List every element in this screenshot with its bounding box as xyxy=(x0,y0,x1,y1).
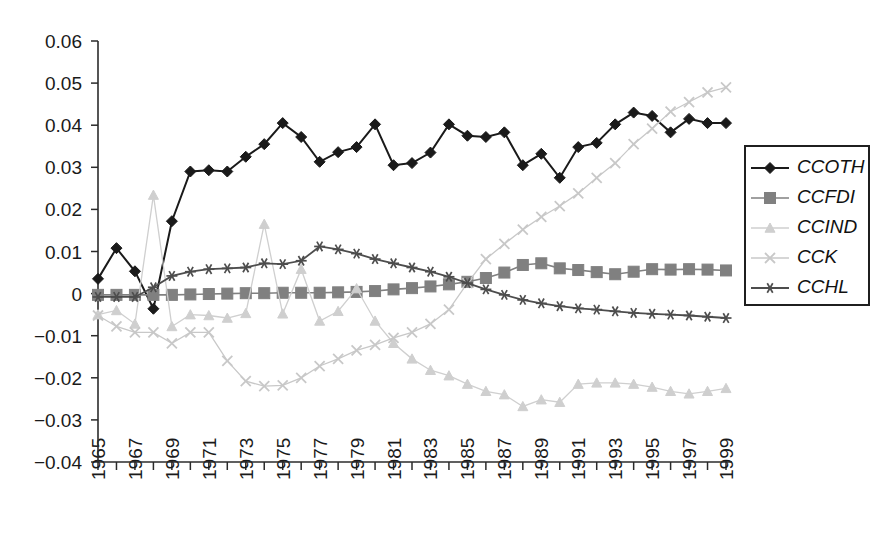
data-point-triangle xyxy=(111,305,121,314)
data-point-square xyxy=(628,266,639,277)
y-tick-label: −0.02 xyxy=(34,368,82,389)
data-point-x xyxy=(241,376,251,386)
legend-item-label: CCOTH xyxy=(797,156,865,177)
y-axis-ticks: 0.060.050.040.030.020.010−0.01−0.02−0.03… xyxy=(34,31,98,473)
data-point-triangle xyxy=(721,383,731,392)
data-point-asterisk xyxy=(702,312,713,322)
chart-legend: CCOTHCCFDICCINDCCKCCHL xyxy=(745,146,869,305)
data-point-x xyxy=(573,188,583,198)
data-point-diamond xyxy=(573,142,584,153)
x-tick-label: 1995 xyxy=(642,438,663,480)
x-axis-ticks: 1965196719691971197319751977197919811983… xyxy=(88,438,737,480)
data-point-square xyxy=(480,273,491,284)
data-point-triangle xyxy=(518,401,528,410)
data-point-square xyxy=(388,284,399,295)
x-tick-label: 1987 xyxy=(494,438,515,480)
data-point-diamond xyxy=(203,165,214,176)
data-point-triangle xyxy=(167,321,177,330)
data-series-layer xyxy=(93,82,732,410)
x-tick-label: 1981 xyxy=(384,438,405,480)
x-tick-label: 1991 xyxy=(568,438,589,480)
data-point-asterisk xyxy=(499,290,510,300)
x-tick-label: 1967 xyxy=(125,438,146,480)
data-point-diamond xyxy=(462,130,473,141)
legend-item-label: CCHL xyxy=(797,276,849,297)
data-point-diamond xyxy=(185,166,196,177)
data-point-x xyxy=(629,139,639,149)
data-point-triangle xyxy=(130,319,140,328)
legend-item-label: CCFDI xyxy=(797,186,856,207)
data-point-square xyxy=(111,289,122,300)
y-tick-label: 0.05 xyxy=(45,73,82,94)
data-point-x xyxy=(721,82,731,92)
data-point-x xyxy=(481,254,491,264)
data-point-diamond xyxy=(628,107,639,118)
data-point-square xyxy=(647,264,658,275)
data-point-diamond xyxy=(333,147,344,158)
data-point-diamond xyxy=(517,160,528,171)
data-point-diamond xyxy=(721,118,732,129)
data-point-x xyxy=(370,340,380,350)
data-point-asterisk xyxy=(647,309,658,319)
x-tick-label: 1969 xyxy=(162,438,183,480)
data-point-triangle xyxy=(259,219,269,228)
data-point-x xyxy=(536,212,546,222)
data-point-square xyxy=(93,289,104,300)
data-point-square xyxy=(370,286,381,297)
data-point-triangle xyxy=(296,264,306,273)
x-tick-label: 1989 xyxy=(531,438,552,480)
series-cck xyxy=(93,82,731,391)
data-point-diamond xyxy=(443,119,454,130)
data-point-asterisk xyxy=(665,310,676,320)
y-tick-label: 0.04 xyxy=(45,115,82,136)
data-point-triangle xyxy=(278,309,288,318)
data-point-square xyxy=(296,287,307,298)
data-point-x xyxy=(167,338,177,348)
data-point-x xyxy=(555,201,565,211)
data-point-square xyxy=(536,258,547,269)
data-point-asterisk xyxy=(388,259,399,269)
data-point-square xyxy=(443,279,454,290)
data-point-x xyxy=(111,321,121,331)
data-point-square xyxy=(765,193,776,204)
data-point-asterisk xyxy=(259,259,270,269)
data-point-diamond xyxy=(499,127,510,138)
data-point-diamond xyxy=(702,118,713,129)
y-tick-label: −0.04 xyxy=(34,452,83,473)
data-point-x xyxy=(352,345,362,355)
data-point-square xyxy=(333,287,344,298)
x-tick-label: 1993 xyxy=(605,438,626,480)
data-point-triangle xyxy=(462,379,472,388)
data-point-x xyxy=(407,327,417,337)
data-point-asterisk xyxy=(517,295,528,305)
data-point-asterisk xyxy=(684,311,695,321)
x-tick-label: 1997 xyxy=(679,438,700,480)
x-tick-label: 1971 xyxy=(199,438,220,480)
y-tick-label: 0.03 xyxy=(45,157,82,178)
data-point-triangle xyxy=(536,395,546,404)
data-point-diamond xyxy=(388,160,399,171)
data-point-square xyxy=(721,265,732,276)
data-point-asterisk xyxy=(554,301,565,311)
line-chart: 0.060.050.040.030.020.010−0.01−0.02−0.03… xyxy=(0,0,894,556)
y-tick-label: 0.06 xyxy=(45,31,82,52)
data-point-x xyxy=(518,225,528,235)
data-point-square xyxy=(407,283,418,294)
data-point-x xyxy=(592,173,602,183)
data-point-square xyxy=(203,289,214,300)
data-point-square xyxy=(314,287,325,298)
data-point-diamond xyxy=(480,131,491,142)
y-tick-label: 0.01 xyxy=(45,242,82,263)
data-point-square xyxy=(259,288,270,299)
data-point-square xyxy=(185,289,196,300)
data-point-asterisk xyxy=(480,285,491,295)
data-point-x xyxy=(666,107,676,117)
data-point-asterisk xyxy=(721,313,732,323)
data-point-asterisk xyxy=(351,249,362,259)
x-tick-label: 1977 xyxy=(310,438,331,480)
data-point-x xyxy=(703,87,713,97)
data-point-x xyxy=(444,305,454,315)
legend-item-label: CCIND xyxy=(797,216,857,237)
series-ccfdi xyxy=(93,258,732,301)
data-point-asterisk xyxy=(277,259,288,269)
